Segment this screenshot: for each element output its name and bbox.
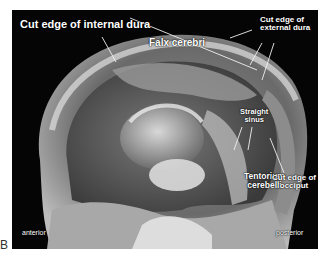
label-line: sinus — [240, 116, 268, 124]
label-cut-edge-external-dura: Cut edge of external dura — [260, 16, 310, 33]
brainstem — [120, 106, 204, 170]
label-cut-edge-internal-dura: Cut edge of internal dura — [20, 19, 150, 31]
label-falx-cerebri: Falx cerebri — [149, 38, 205, 49]
label-straight-sinus: Straight sinus — [240, 108, 268, 124]
label-line: occiput — [272, 182, 316, 190]
label-anterior: anterior — [22, 229, 46, 236]
label-cut-edge-occiput: Cut edge of occiput — [272, 174, 316, 191]
label-line: external dura — [260, 24, 310, 32]
label-posterior: posterior — [276, 229, 303, 236]
panel-letter: B — [0, 238, 8, 252]
anatomy-photo: Cut edge of internal dura Cut edge of ex… — [12, 10, 318, 249]
